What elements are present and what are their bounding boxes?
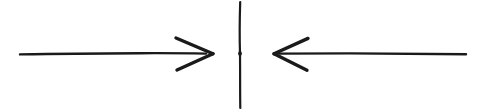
right-arrow-shaft — [279, 53, 466, 54]
vertical-barrier-line — [238, 2, 242, 108]
right-arrow-head-upper-wing — [274, 38, 308, 53]
barrier-ink-blot — [238, 51, 242, 56]
figure-canvas: Opposing arrows meeting at a vertical ba… — [0, 0, 485, 112]
right-arrow — [274, 38, 466, 70]
right-arrow-head-lower-wing — [274, 54, 307, 70]
left-arrow-shaft — [20, 53, 206, 54]
diagram-svg: Opposing arrows meeting at a vertical ba… — [0, 0, 485, 112]
left-arrow-head-upper-wing — [176, 38, 213, 54]
left-arrow-head-lower-wing — [177, 54, 213, 70]
left-arrow — [20, 38, 213, 70]
